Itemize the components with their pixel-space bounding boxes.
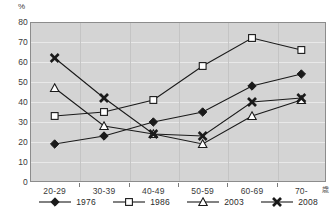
legend-swatch-triangle <box>186 196 220 208</box>
legend-label: 1986 <box>150 197 170 207</box>
series-line <box>55 74 302 144</box>
chart-legend: 1976198620032008 <box>30 192 326 212</box>
square-marker <box>199 63 206 70</box>
legend-swatch-square <box>112 196 146 208</box>
square-marker <box>249 35 256 42</box>
triangle-marker <box>100 122 108 130</box>
legend-label: 1976 <box>76 197 96 207</box>
legend-swatch-cross <box>260 196 294 208</box>
series-line <box>55 38 302 116</box>
series-line <box>55 88 302 144</box>
triangle-marker <box>248 112 256 120</box>
legend-label: 2003 <box>224 197 244 207</box>
diamond-marker <box>50 140 58 148</box>
square-marker <box>126 199 133 206</box>
diamond-marker <box>51 198 59 206</box>
diamond-marker <box>198 108 206 116</box>
legend-swatch-diamond <box>38 196 72 208</box>
square-marker <box>150 97 157 104</box>
series-layer <box>0 0 336 213</box>
cross-marker <box>51 54 59 62</box>
legend-item-1976[interactable]: 1976 <box>38 196 96 208</box>
series-1986 <box>51 35 304 120</box>
legend-item-1986[interactable]: 1986 <box>112 196 170 208</box>
square-marker <box>298 47 305 54</box>
series-line <box>55 58 302 136</box>
diamond-marker <box>149 118 157 126</box>
diamond-marker <box>297 70 305 78</box>
cross-marker <box>100 94 108 102</box>
legend-label: 2008 <box>298 197 318 207</box>
legend-item-2008[interactable]: 2008 <box>260 196 318 208</box>
square-marker <box>51 113 58 120</box>
square-marker <box>101 109 108 116</box>
series-1976 <box>50 70 305 148</box>
diamond-marker <box>248 82 256 90</box>
triangle-marker <box>50 84 58 92</box>
legend-item-2003[interactable]: 2003 <box>186 196 244 208</box>
diamond-marker <box>100 132 108 140</box>
series-2008 <box>51 54 306 140</box>
line-chart: % 80706050403020100 20-2930-3940-4950-59… <box>0 0 336 213</box>
